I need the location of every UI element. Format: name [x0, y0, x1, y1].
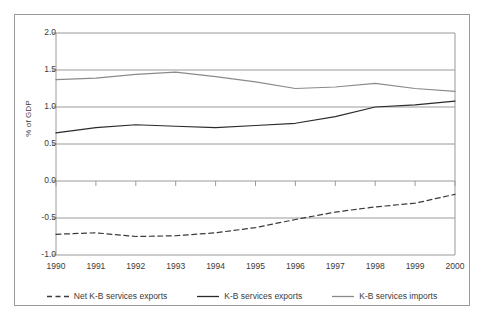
x-tick-label-1996: 1996 [275, 262, 315, 271]
figure-container: % of GDP 2.01.51.00.50.0-0.5-1.0 1990199… [0, 0, 485, 320]
legend-item-2[interactable]: K-B services imports [332, 292, 437, 301]
x-tick-label-1990: 1990 [36, 262, 76, 271]
x-tick-label-1992: 1992 [116, 262, 156, 271]
y-tick-label-0: 2.0 [44, 28, 56, 37]
legend-item-1[interactable]: K-B services exports [197, 292, 302, 301]
chart-legend: Net K-B services exportsK-B services exp… [22, 288, 462, 304]
legend-line-swatch-icon [332, 293, 354, 300]
legend-label: K-B services imports [359, 292, 437, 301]
x-tick-label-1991: 1991 [76, 262, 116, 271]
y-tick-label-6: -1.0 [41, 250, 56, 259]
x-tick-label-1995: 1995 [236, 262, 276, 271]
legend-line-swatch-icon [197, 293, 219, 300]
x-tick-label-1999: 1999 [395, 262, 435, 271]
x-tick-label-1994: 1994 [196, 262, 236, 271]
y-tick-label-3: 0.5 [44, 139, 56, 148]
x-tick-label-1997: 1997 [315, 262, 355, 271]
y-tick-label-5: -0.5 [41, 213, 56, 222]
y-tick-label-1: 1.5 [44, 65, 56, 74]
y-tick-label-2: 1.0 [44, 102, 56, 111]
legend-label: K-B services exports [224, 292, 302, 301]
data-series-group [56, 72, 455, 236]
y-axis-label: % of GDP [24, 79, 33, 159]
legend-label: Net K-B services exports [74, 292, 168, 301]
series-line-0 [56, 194, 455, 236]
x-tick-label-2000: 2000 [435, 262, 475, 271]
x-tick-label-1998: 1998 [355, 262, 395, 271]
x-tick-label-1993: 1993 [156, 262, 196, 271]
legend-item-0[interactable]: Net K-B services exports [47, 292, 168, 301]
series-line-2 [56, 72, 455, 91]
series-line-1 [56, 101, 455, 133]
gridlines-group [56, 33, 455, 255]
x-axis-ticks [56, 181, 455, 186]
legend-line-swatch-icon [47, 293, 69, 300]
y-tick-label-4: 0.0 [44, 176, 56, 185]
